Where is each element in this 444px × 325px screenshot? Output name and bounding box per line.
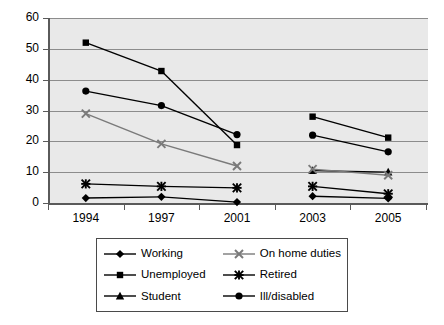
legend-marker-square-icon — [103, 269, 137, 281]
data-point-diamond — [116, 250, 124, 258]
data-point-circle — [233, 131, 240, 138]
data-point-diamond — [82, 194, 90, 202]
y-axis-tick — [43, 203, 48, 204]
chart-legend: WorkingOn home dutiesUnemployedRetiredSt… — [96, 238, 348, 312]
y-axis-label: 30 — [0, 103, 39, 117]
series-segment — [161, 186, 237, 188]
series-segment — [313, 117, 389, 138]
data-point-circle — [385, 148, 392, 155]
y-axis-tick — [43, 80, 48, 81]
data-point-circle — [235, 293, 242, 300]
data-point-star — [81, 179, 90, 188]
data-point-cross — [233, 162, 241, 170]
legend-item-ill-disabled[interactable]: Ill/disabled — [222, 290, 341, 302]
y-axis-label: 0 — [0, 195, 39, 209]
legend-label: Working — [141, 248, 183, 260]
data-point-circle — [158, 102, 165, 109]
legend-label: Unemployed — [141, 269, 206, 281]
data-point-square — [309, 113, 315, 119]
legend-label: Ill/disabled — [260, 291, 314, 303]
y-axis-label: 20 — [0, 133, 39, 147]
series-segment — [161, 144, 237, 166]
legend-marker-triangle-icon — [103, 290, 137, 302]
data-point-square — [158, 68, 164, 74]
data-point-star — [308, 182, 317, 191]
y-axis-tick — [43, 49, 48, 50]
x-axis-label: 2001 — [199, 211, 275, 225]
y-axis-label: 10 — [0, 164, 39, 178]
x-axis-label: 1994 — [48, 211, 124, 225]
series-segment — [86, 91, 162, 105]
data-point-cross — [82, 110, 90, 118]
series-segment — [313, 186, 389, 193]
series-segment — [313, 196, 389, 198]
data-point-star — [232, 183, 241, 192]
y-axis-tick — [43, 111, 48, 112]
legend-entries: WorkingOn home dutiesUnemployedRetiredSt… — [97, 239, 347, 311]
legend-marker-diamond-icon — [103, 248, 137, 260]
x-axis-tick — [124, 205, 125, 210]
x-axis-label: 1997 — [124, 211, 200, 225]
data-point-diamond — [157, 193, 165, 201]
data-point-cross — [157, 140, 165, 148]
data-point-star — [157, 182, 166, 191]
x-axis-label: 2005 — [350, 211, 426, 225]
legend-marker-cross-icon — [222, 248, 256, 260]
plot-wrapper: 010203040506019941997200120032005 — [0, 0, 444, 222]
series-retired — [81, 179, 393, 198]
y-axis-tick — [43, 18, 48, 19]
legend-label: On home duties — [260, 248, 341, 260]
series-segment — [86, 43, 162, 71]
data-point-square — [117, 272, 123, 278]
x-axis-tick — [275, 205, 276, 210]
series-segment — [161, 197, 237, 202]
x-axis-tick — [199, 205, 200, 210]
data-point-diamond — [233, 198, 241, 206]
x-axis-tick — [48, 205, 49, 210]
data-point-star — [234, 270, 243, 279]
chart-container: 010203040506019941997200120032005 Workin… — [0, 0, 444, 325]
legend-marker-circle-icon — [222, 290, 256, 302]
data-point-square — [83, 39, 89, 45]
y-axis-tick — [43, 172, 48, 173]
legend-item-student[interactable]: Student — [103, 290, 222, 302]
legend-label: Retired — [260, 269, 297, 281]
legend-marker-star-icon — [222, 269, 256, 281]
series-segment — [86, 114, 162, 144]
data-point-circle — [309, 132, 316, 139]
y-axis-label: 40 — [0, 72, 39, 86]
x-axis-tick — [426, 205, 427, 210]
series-segment — [86, 197, 162, 198]
series-segment — [86, 184, 162, 186]
legend-item-retired[interactable]: Retired — [222, 269, 341, 281]
legend-item-working[interactable]: Working — [103, 248, 222, 260]
y-axis-tick — [43, 141, 48, 142]
legend-item-unemployed[interactable]: Unemployed — [103, 269, 222, 281]
series-lines-layer — [0, 0, 444, 222]
series-working — [82, 192, 393, 206]
data-point-square — [234, 142, 240, 148]
x-axis-label: 2003 — [275, 211, 351, 225]
data-point-square — [385, 134, 391, 140]
series-segment — [161, 71, 237, 145]
y-axis-label: 60 — [0, 10, 39, 24]
legend-item-on-home-duties[interactable]: On home duties — [222, 248, 341, 260]
y-axis-label: 50 — [0, 41, 39, 55]
data-point-diamond — [309, 192, 317, 200]
data-point-star — [384, 189, 393, 198]
x-axis-tick — [350, 205, 351, 210]
legend-label: Student — [141, 291, 181, 303]
series-segment — [313, 135, 389, 152]
data-point-circle — [82, 87, 89, 94]
series-segment — [161, 106, 237, 135]
